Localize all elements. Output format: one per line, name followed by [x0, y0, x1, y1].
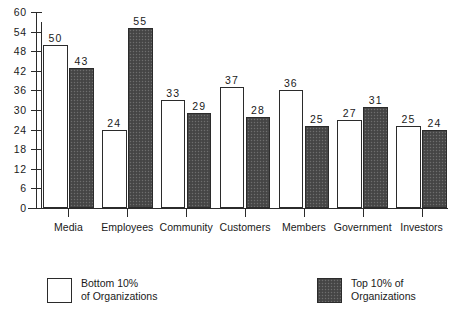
category-label: Government — [334, 221, 392, 234]
y-axis-tick: 6 — [31, 188, 42, 189]
bar: 55 — [128, 28, 153, 208]
y-axis-tick: 12 — [31, 169, 42, 170]
bar: 28 — [246, 117, 271, 208]
y-axis-tick-label: 6 — [20, 182, 27, 195]
y-axis-tick: 0 — [31, 208, 42, 209]
bar-value-label: 25 — [402, 113, 416, 125]
bar-value-label: 37 — [225, 74, 239, 86]
legend-label-bottom-10: Bottom 10% of Organizations — [81, 277, 157, 303]
y-axis-tick: 48 — [31, 51, 42, 52]
bar-value-label: 25 — [310, 113, 324, 125]
legend-label-top-10: Top 10% of Organizations — [351, 277, 416, 303]
bar-value-label: 31 — [369, 94, 383, 106]
y-axis-tick: 30 — [31, 110, 42, 111]
bar-value-label: 33 — [166, 87, 180, 99]
legend-label-top-10-line2: Organizations — [351, 290, 416, 303]
y-axis-tick: 60 — [31, 12, 42, 13]
x-axis-tick — [304, 208, 305, 217]
legend-item-top-10: Top 10% of Organizations — [317, 277, 416, 303]
y-axis-tick-label: 0 — [20, 202, 27, 215]
category-label: Community — [160, 221, 213, 234]
bar-value-label: 24 — [107, 117, 121, 129]
bar-value-label: 36 — [284, 77, 298, 89]
x-axis-tick — [127, 208, 128, 217]
y-axis-tick: 36 — [31, 90, 42, 91]
bar: 29 — [187, 113, 212, 208]
y-axis-tick: 24 — [31, 130, 42, 131]
bar: 43 — [69, 68, 94, 208]
bar-chart: 06121824303642485460 5043245533293728362… — [0, 0, 457, 322]
y-axis-tick-label: 60 — [14, 6, 27, 19]
y-axis-line-inner — [41, 22, 42, 208]
legend-swatch-bottom-10 — [47, 278, 72, 303]
y-axis-tick-label: 12 — [14, 163, 27, 176]
legend-label-top-10-line1: Top 10% of — [351, 277, 416, 290]
y-axis-tick-label: 36 — [14, 84, 27, 97]
x-axis-tick — [68, 208, 69, 217]
bar: 25 — [305, 126, 330, 208]
category-label: Media — [54, 221, 83, 234]
bar: 33 — [161, 100, 186, 208]
bar-value-label: 43 — [74, 55, 88, 67]
bar-value-label: 28 — [251, 104, 265, 116]
y-axis-tick-label: 54 — [14, 26, 27, 39]
y-axis-tick-label: 48 — [14, 45, 27, 58]
bar: 50 — [43, 45, 68, 208]
y-axis-tick: 54 — [31, 32, 42, 33]
x-axis-line — [28, 208, 448, 209]
category-label: Investors — [400, 221, 443, 234]
bar-value-label: 29 — [192, 100, 206, 112]
legend-item-bottom-10: Bottom 10% of Organizations — [47, 277, 157, 303]
bar: 36 — [279, 90, 304, 208]
y-axis-tick-label: 24 — [14, 124, 27, 137]
plot-area: 06121824303642485460 5043245533293728362… — [36, 12, 448, 208]
y-axis-tick-label: 30 — [14, 104, 27, 117]
x-axis-tick — [245, 208, 246, 217]
y-axis-tick-label: 18 — [14, 143, 27, 156]
bar-value-label: 24 — [428, 117, 442, 129]
y-axis-tick: 42 — [31, 71, 42, 72]
bar-value-label: 27 — [343, 107, 357, 119]
bar: 24 — [422, 130, 447, 208]
y-axis-tick: 18 — [31, 149, 42, 150]
bar: 25 — [396, 126, 421, 208]
category-label: Members — [282, 221, 326, 234]
bar: 27 — [337, 120, 362, 208]
category-label: Employees — [101, 221, 153, 234]
bar: 37 — [220, 87, 245, 208]
legend-label-bottom-10-line1: Bottom 10% — [81, 277, 157, 290]
legend-swatch-top-10 — [317, 278, 342, 303]
x-axis-tick — [363, 208, 364, 217]
category-label: Customers — [220, 221, 271, 234]
legend-label-bottom-10-line2: of Organizations — [81, 290, 157, 303]
x-axis-tick — [422, 208, 423, 217]
bar-value-label: 55 — [133, 15, 147, 27]
x-axis-tick — [186, 208, 187, 217]
bar: 31 — [363, 107, 388, 208]
bar: 24 — [102, 130, 127, 208]
y-axis-tick-label: 42 — [14, 65, 27, 78]
bar-value-label: 50 — [48, 32, 62, 44]
